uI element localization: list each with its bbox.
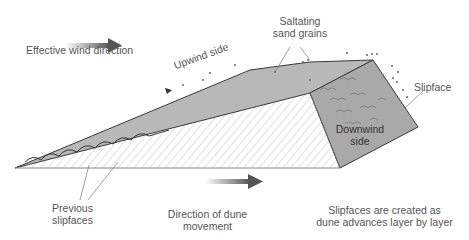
previous-line-2: slipfaces	[45, 214, 100, 226]
movement-line-1: Direction of dune	[160, 208, 255, 220]
note-line-1: Slipfaces are created as	[312, 204, 457, 216]
saltating-label: Saltating sand grains	[270, 15, 330, 39]
note-line-2: dune advances layer by layer	[312, 216, 457, 228]
slipface-note: Slipfaces are created as dune advances l…	[312, 204, 457, 228]
saltating-line-2: sand grains	[270, 27, 330, 39]
previous-slipfaces-label: Previous slipfaces	[45, 202, 100, 226]
wind-direction-label: Effective wind direction	[26, 44, 133, 56]
slipface-label: Slipface	[414, 81, 451, 93]
downwind-line-1: Downwind	[335, 123, 385, 135]
downwind-line-2: side	[335, 135, 385, 147]
previous-line-1: Previous	[45, 202, 100, 214]
movement-arrow-icon	[205, 174, 263, 189]
movement-line-2: movement	[160, 220, 255, 232]
saltating-line-1: Saltating	[270, 15, 330, 27]
dune-movement-label: Direction of dune movement	[160, 208, 255, 232]
downwind-side-label: Downwind side	[335, 123, 385, 147]
